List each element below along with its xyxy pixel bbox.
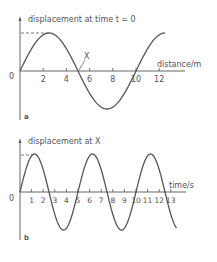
y-axis-arrow-icon (19, 138, 22, 143)
x-tick-label: 11 (143, 196, 153, 205)
x-tick-label: 4 (64, 75, 69, 84)
chart-b: 12345678910111213 displacement at X time… (9, 137, 194, 242)
origin-b: 0 (9, 194, 14, 203)
panel-label-b: b (24, 234, 29, 242)
x-tick-label: 1 (29, 196, 34, 205)
x-tick-label: 2 (41, 75, 46, 84)
annotation-x: X (84, 52, 90, 61)
chart-a: 24681012 X displacement at time t = 0 di… (9, 15, 202, 121)
ylabel-b: displacement at X (28, 137, 101, 146)
ylabel-a: displacement at time t = 0 (28, 15, 136, 24)
origin-a: 0 (9, 72, 14, 81)
x-tick-label: 12 (154, 75, 164, 84)
x-tick-label: 3 (52, 196, 57, 205)
x-tick-label: 12 (154, 196, 164, 205)
x-tick-label: 4 (64, 196, 69, 205)
panel-label-a: a (24, 113, 29, 121)
x-ticks-a: 24681012 (41, 68, 165, 84)
x-tick-label: 9 (122, 196, 127, 205)
x-tick-label: 2 (41, 196, 46, 205)
x-tick-label: 7 (99, 196, 104, 205)
x-tick-label: 8 (110, 75, 115, 84)
x-tick-label: 6 (87, 196, 92, 205)
x-tick-label: 6 (87, 75, 92, 84)
y-axis-arrow-icon (19, 16, 22, 21)
xlabel-a: distance/m (157, 60, 202, 69)
x-tick-label: 8 (110, 196, 115, 205)
pointer-x (79, 60, 85, 70)
xlabel-b: time/s (169, 181, 194, 190)
wave-figure: 24681012 X displacement at time t = 0 di… (0, 0, 217, 262)
